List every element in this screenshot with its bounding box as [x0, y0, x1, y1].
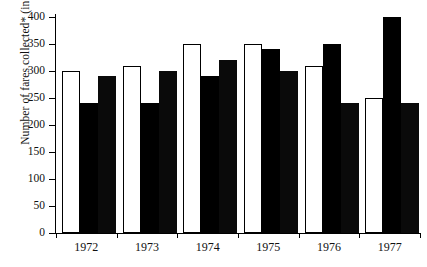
x-tick-label-1976: 1976 — [299, 240, 359, 255]
y-tick-mark — [49, 98, 56, 99]
y-tick-mark — [49, 233, 56, 234]
y-tick-label: 400 — [5, 11, 45, 23]
y-tick-label: 50 — [5, 200, 45, 212]
y-tick-label: 350 — [5, 38, 45, 50]
bar-1974-series-1-white — [183, 44, 201, 233]
bar-1974-series-3-black — [219, 60, 237, 233]
bar-1975-series-1-white — [244, 44, 262, 233]
y-tick-mark — [49, 206, 56, 207]
x-tick-mark — [359, 233, 360, 238]
y-tick-label: 300 — [5, 65, 45, 77]
x-tick-label-1975: 1975 — [238, 240, 298, 255]
bar-1977-series-3-black — [401, 103, 419, 233]
bar-1975-series-3-black — [280, 71, 298, 233]
bar-1973-series-1-white — [123, 66, 141, 233]
bar-group-1976 — [299, 17, 360, 233]
x-tick-label-1977: 1977 — [360, 240, 420, 255]
y-tick-mark — [49, 125, 56, 126]
y-tick-label: 150 — [5, 146, 45, 158]
plot-area — [56, 17, 420, 233]
bar-1977-series-1-white — [365, 98, 383, 233]
bar-group-1975 — [238, 17, 299, 233]
x-tick-label-1974: 1974 — [178, 240, 238, 255]
bar-1976-series-1-white — [305, 66, 323, 233]
bar-1977-series-2-hatched — [383, 17, 401, 233]
x-tick-label-1972: 1972 — [56, 240, 116, 255]
y-tick-mark — [49, 44, 56, 45]
bar-group-1973 — [117, 17, 178, 233]
x-tick-mark — [56, 233, 57, 238]
y-tick-mark — [49, 179, 56, 180]
bar-1976-series-3-black — [341, 103, 359, 233]
y-tick-mark — [49, 152, 56, 153]
x-tick-mark — [420, 233, 421, 238]
bar-group-1974 — [177, 17, 238, 233]
y-tick-mark — [49, 17, 56, 18]
bar-1973-series-2-hatched — [141, 103, 159, 233]
bar-1972-series-1-white — [62, 71, 80, 233]
y-tick-mark — [49, 71, 56, 72]
y-tick-label: 100 — [5, 173, 45, 185]
x-tick-mark — [299, 233, 300, 238]
bar-1975-series-2-hatched — [262, 49, 280, 233]
bar-1972-series-3-black — [98, 76, 116, 233]
x-tick-mark — [177, 233, 178, 238]
bar-1972-series-2-hatched — [80, 103, 98, 233]
y-tick-label: 0 — [5, 227, 45, 239]
bar-chart: Number of fares collected* (in millions)… — [0, 0, 427, 267]
bar-1976-series-2-hatched — [323, 44, 341, 233]
bar-group-1977 — [359, 17, 420, 233]
bar-group-1972 — [56, 17, 117, 233]
bar-1973-series-3-black — [159, 71, 177, 233]
bar-1974-series-2-hatched — [201, 76, 219, 233]
y-tick-label: 250 — [5, 92, 45, 104]
y-axis-title: Number of fares collected* (in millions) — [19, 0, 31, 160]
x-tick-mark — [117, 233, 118, 238]
y-tick-label: 200 — [5, 119, 45, 131]
x-tick-mark — [238, 233, 239, 238]
x-tick-label-1973: 1973 — [117, 240, 177, 255]
